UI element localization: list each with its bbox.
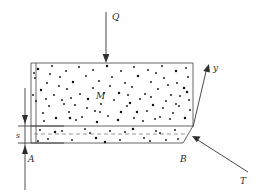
particle-dot <box>98 80 100 82</box>
force-t-arrow <box>192 136 248 172</box>
particle-dot <box>161 65 163 67</box>
particle-dot <box>163 77 165 79</box>
particle-dot <box>104 141 107 144</box>
particle-dot <box>79 93 81 95</box>
axis-y-label: y <box>212 63 219 73</box>
particle-dot <box>95 137 98 140</box>
particle-dot <box>144 93 146 95</box>
particle-dot <box>154 118 156 120</box>
particle-dot <box>49 73 51 75</box>
particle-dot <box>184 117 187 120</box>
particle-dot <box>137 75 140 78</box>
particle-dot <box>86 107 88 109</box>
particle-dot <box>74 104 76 106</box>
particle-dot <box>175 103 177 105</box>
particle-dot <box>75 119 77 121</box>
particle-dot <box>84 128 86 130</box>
particle-dot <box>69 117 72 120</box>
particle-dot <box>150 96 152 98</box>
particle-dot <box>147 69 149 71</box>
particle-dot <box>162 107 164 109</box>
diagram-canvas: Q y T M A B s <box>0 0 260 194</box>
particle-dot <box>124 131 126 133</box>
particle-dot <box>187 76 189 78</box>
particle-dot <box>126 105 128 107</box>
thickness-label-s: s <box>16 131 20 140</box>
particle-dot <box>51 65 53 67</box>
particle-dot <box>100 103 102 105</box>
particle-dot <box>71 139 73 141</box>
particle-dot <box>99 111 101 113</box>
particle-dot <box>63 103 65 105</box>
particle-dot <box>107 115 109 117</box>
particle-dot <box>170 94 172 96</box>
particle-dot <box>178 105 180 107</box>
particle-dot <box>146 110 148 112</box>
particle-dot <box>109 130 111 132</box>
particle-dot <box>143 137 145 139</box>
particle-dot <box>92 87 94 89</box>
particle-dot <box>176 82 178 84</box>
particle-dot <box>85 75 87 77</box>
particle-dot <box>133 66 135 68</box>
particle-dot <box>58 85 60 87</box>
force-t-label: T <box>240 176 247 186</box>
particle-dot <box>175 70 178 73</box>
particle-dot <box>133 117 135 119</box>
particle-dot <box>47 138 49 140</box>
particle-dot <box>55 117 58 120</box>
point-a-label: A <box>27 154 35 164</box>
body-label-m: M <box>95 91 106 101</box>
particle-dot <box>96 121 99 124</box>
particle-dot <box>35 100 37 102</box>
particle-dot <box>59 76 61 78</box>
particle-dot <box>120 70 122 72</box>
particle-dot <box>188 99 190 101</box>
particle-dot <box>165 139 167 141</box>
axis-y-arrow <box>193 64 210 127</box>
particle-dot <box>127 94 129 96</box>
particle-dot <box>87 98 90 101</box>
particle-dot <box>129 102 132 105</box>
particle-dot <box>167 84 169 86</box>
particle-dot <box>155 130 157 132</box>
particle-dot <box>78 66 80 68</box>
particle-dot <box>117 119 120 122</box>
particle-dot <box>159 116 161 118</box>
particle-dot <box>53 94 55 96</box>
particle-dot <box>72 81 75 84</box>
particle-dot <box>179 95 181 97</box>
particle-dot <box>186 91 189 94</box>
particle-dot <box>32 94 34 96</box>
particle-dot <box>124 82 126 84</box>
particle-dot <box>94 110 96 112</box>
particle-dot <box>46 82 48 84</box>
particle-dot <box>89 132 91 134</box>
particle-dot <box>45 98 47 100</box>
particle-dot <box>189 109 191 111</box>
particle-dot <box>111 76 113 78</box>
particle-dot <box>33 72 35 74</box>
particle-dot <box>142 120 144 122</box>
load-label-q: Q <box>112 12 120 22</box>
particle-dot <box>65 70 67 72</box>
particle-dot <box>172 112 174 114</box>
particle-dot <box>139 98 141 100</box>
particle-dot <box>118 92 121 95</box>
particle-dot <box>66 88 68 90</box>
particle-dot <box>159 132 161 134</box>
particle-dot <box>149 140 151 142</box>
particle-dot <box>131 86 133 88</box>
particle-dot <box>48 105 50 107</box>
particle-dot <box>165 100 167 102</box>
particle-dot <box>43 120 45 122</box>
particle-dot <box>152 104 155 107</box>
particle-dot <box>113 99 115 101</box>
particle-dot <box>177 138 179 140</box>
particle-dot <box>157 88 159 90</box>
mechanics-diagram: Q y T M A B s <box>0 0 260 194</box>
particle-dot <box>155 72 157 74</box>
particle-dot <box>81 116 83 118</box>
particle-dot <box>120 111 123 114</box>
particle-dot <box>106 65 109 68</box>
